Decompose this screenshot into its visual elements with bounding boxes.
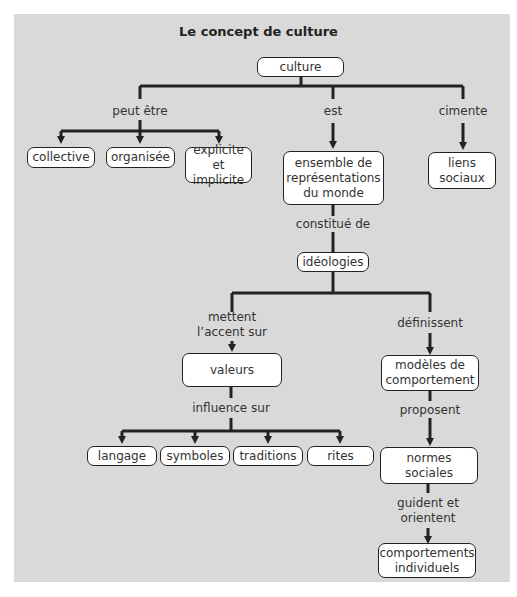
node-explicite-implicite: explicite et implicite bbox=[185, 147, 252, 183]
node-culture-label: culture bbox=[280, 60, 322, 75]
node-normes-line2: sociales bbox=[405, 466, 453, 481]
node-comportements-line2: individuels bbox=[395, 561, 460, 576]
link-proposent: proposent bbox=[390, 403, 470, 418]
node-traditions: traditions bbox=[233, 446, 303, 466]
node-symboles-label: symboles bbox=[167, 449, 224, 464]
node-langage-label: langage bbox=[98, 449, 146, 464]
node-liens-sociaux: liens sociaux bbox=[428, 152, 496, 189]
node-valeurs-label: valeurs bbox=[210, 363, 254, 378]
link-definissent: définissent bbox=[385, 316, 475, 331]
link-guident-et-orientent: guident et orientent bbox=[388, 496, 468, 526]
link-influence-sur: influence sur bbox=[186, 401, 276, 416]
node-collective: collective bbox=[27, 147, 95, 168]
node-organisee: organisée bbox=[106, 147, 175, 168]
node-liens-line1: liens bbox=[448, 156, 476, 171]
link-cimente: cimente bbox=[433, 104, 493, 119]
node-symboles: symboles bbox=[160, 446, 230, 466]
node-explicite-line2: et implicite bbox=[186, 158, 251, 188]
node-ideologies: idéologies bbox=[297, 252, 369, 272]
node-ensemble-line1: ensemble de bbox=[295, 156, 372, 171]
link-constitue-de: constitué de bbox=[283, 217, 383, 232]
node-modeles-line1: modèles de bbox=[395, 358, 465, 373]
link-guident-line2: orientent bbox=[388, 511, 468, 526]
link-est: est bbox=[313, 104, 353, 119]
node-valeurs: valeurs bbox=[182, 353, 282, 387]
node-comportements-line1: comportements bbox=[379, 546, 474, 561]
link-peut-etre: peut être bbox=[105, 104, 175, 119]
node-explicite-line1: explicite bbox=[193, 143, 244, 158]
node-ensemble-line3: du monde bbox=[303, 186, 364, 201]
link-mettent-line1: mettent bbox=[187, 310, 277, 325]
link-mettent-line2: l’accent sur bbox=[187, 325, 277, 340]
node-modeles-comportement: modèles de comportement bbox=[381, 355, 479, 391]
node-culture: culture bbox=[257, 57, 344, 77]
node-rites: rites bbox=[307, 446, 374, 466]
node-ensemble-representations: ensemble de représentations du monde bbox=[283, 151, 384, 205]
node-langage: langage bbox=[87, 446, 157, 466]
node-normes-line1: normes bbox=[407, 451, 452, 466]
node-modeles-line2: comportement bbox=[386, 373, 475, 388]
node-comportements-individuels: comportements individuels bbox=[378, 543, 476, 578]
diagram-title: Le concept de culture bbox=[0, 24, 517, 39]
link-guident-line1: guident et bbox=[388, 496, 468, 511]
node-rites-label: rites bbox=[327, 449, 354, 464]
node-liens-line2: sociaux bbox=[439, 171, 485, 186]
node-ensemble-line2: représentations bbox=[286, 171, 380, 186]
node-organisee-label: organisée bbox=[111, 150, 170, 165]
node-collective-label: collective bbox=[32, 150, 89, 165]
link-mettent-l-accent-sur: mettent l’accent sur bbox=[187, 310, 277, 340]
node-traditions-label: traditions bbox=[239, 449, 296, 464]
node-ideologies-label: idéologies bbox=[303, 255, 364, 270]
node-normes-sociales: normes sociales bbox=[380, 447, 478, 484]
